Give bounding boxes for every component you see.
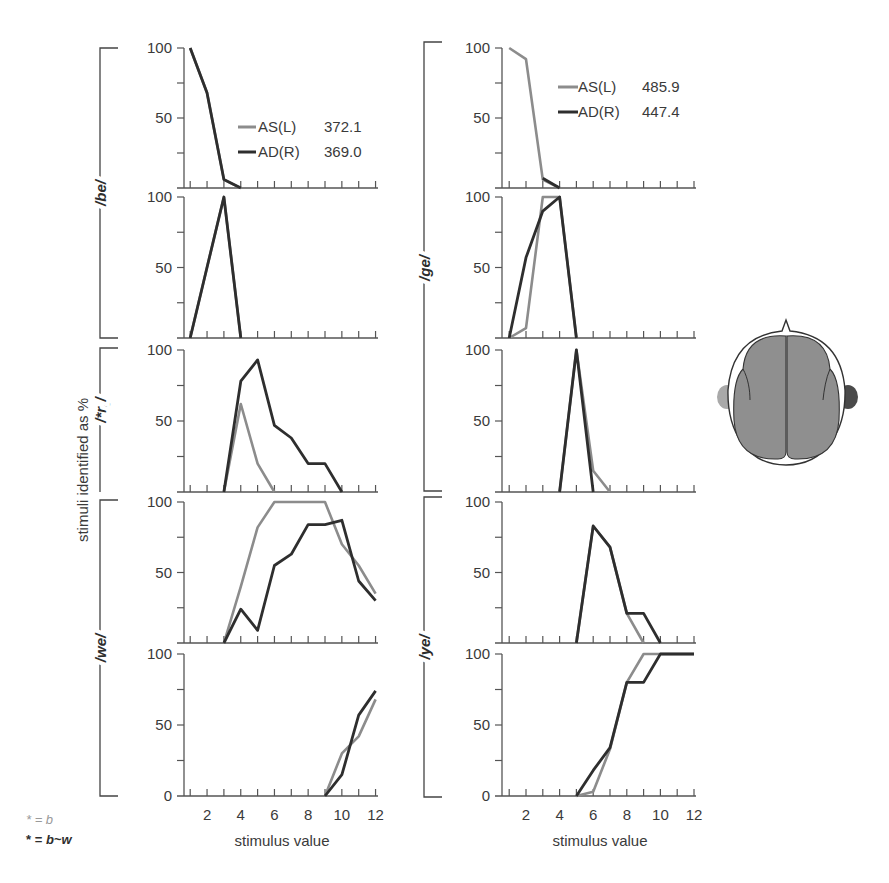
- y-tick-label: 100: [147, 645, 172, 662]
- y-tick-label: 100: [147, 341, 172, 358]
- y-tick-label: 100: [465, 341, 490, 358]
- x-tick-label: 2: [203, 806, 211, 823]
- x-tick-label: 2: [522, 806, 530, 823]
- legend-ad-value: 369.0: [324, 143, 362, 160]
- legend-left: AS(L) 372.1 AD(R) 369.0: [238, 118, 362, 160]
- series-ad-right-line: [224, 360, 342, 492]
- identification-figure: 1005010050100501005010050024681012100501…: [0, 0, 889, 883]
- y-tick-label: 50: [155, 109, 172, 126]
- legend-as-name: AS(L): [258, 118, 296, 135]
- y-tick-label: 50: [155, 564, 172, 581]
- series-as-left-line: [576, 654, 694, 796]
- y-tick-label: 0: [482, 787, 490, 804]
- series-ad-right-line: [509, 197, 576, 338]
- x-tick-label: 8: [304, 806, 312, 823]
- y-axis-title: stimuli identified as %: [74, 398, 91, 542]
- x-axis-title-right: stimulus value: [552, 832, 647, 849]
- y-tick-label: 100: [465, 188, 490, 205]
- panel-right-3: 10050: [465, 341, 696, 492]
- y-tick-label: 0: [164, 787, 172, 804]
- x-tick-label: 12: [686, 806, 703, 823]
- panel-right-2: 10050: [465, 188, 696, 338]
- y-tick-label: 50: [473, 564, 490, 581]
- group-label-ge: /ge/: [416, 253, 433, 282]
- x-tick-label: 10: [334, 806, 351, 823]
- series-ad-right-line: [224, 520, 376, 643]
- series-as-left-line: [509, 48, 559, 188]
- head-brain-icon: [717, 320, 858, 465]
- y-tick-label: 100: [147, 188, 172, 205]
- y-tick-label: 100: [465, 645, 490, 662]
- panel-left-4: 10050: [147, 493, 378, 643]
- x-tick-label: 8: [623, 806, 631, 823]
- y-tick-label: 100: [147, 493, 172, 510]
- series-ad-right-line: [576, 526, 660, 643]
- y-tick-label: 100: [465, 39, 490, 56]
- y-tick-label: 50: [155, 412, 172, 429]
- panel-right-4: 10050: [465, 493, 696, 643]
- legend-as-value: 372.1: [324, 118, 362, 135]
- x-tick-label: 6: [270, 806, 278, 823]
- series-as-left-line: [509, 197, 576, 338]
- panel-right-5: 10050024681012: [465, 645, 702, 823]
- x-axis-title-left: stimulus value: [234, 832, 329, 849]
- y-tick-label: 50: [155, 716, 172, 733]
- series-as-left-line: [576, 526, 643, 643]
- y-tick-label: 50: [473, 259, 490, 276]
- y-tick-label: 100: [465, 493, 490, 510]
- legend-as-name: AS(L): [578, 78, 616, 95]
- x-tick-label: 12: [367, 806, 384, 823]
- panel-left-3: 10050: [147, 341, 378, 492]
- group-label-be: /be/: [92, 178, 109, 207]
- x-tick-label: 4: [237, 806, 245, 823]
- group-label-we: /we/: [92, 632, 109, 663]
- x-tick-label: 10: [652, 806, 669, 823]
- panel-left-2: 10050: [147, 188, 378, 338]
- x-tick-label: 4: [555, 806, 563, 823]
- y-tick-label: 50: [473, 412, 490, 429]
- series-ad-right-line: [190, 197, 241, 338]
- series-ad-right-line: [543, 178, 560, 188]
- footnote-dark: * = b~w: [26, 832, 72, 847]
- series-ad-right-line: [560, 350, 594, 492]
- legend-as-value: 485.9: [642, 78, 680, 95]
- y-tick-label: 50: [473, 109, 490, 126]
- series-as-left-line: [224, 502, 376, 643]
- panel-left-5: 10050024681012: [147, 645, 384, 823]
- footnote-gray: * = b: [26, 812, 53, 827]
- series-ad-right-line: [576, 654, 694, 796]
- plot-area: 1005010050100501005010050024681012100501…: [147, 39, 702, 823]
- x-tick-label: 6: [589, 806, 597, 823]
- legend-ad-value: 447.4: [642, 103, 680, 120]
- series-ad-right-line: [190, 48, 241, 188]
- panel-left-1: 10050: [147, 39, 378, 188]
- y-tick-label: 100: [147, 39, 172, 56]
- legend-ad-name: AD(R): [578, 103, 620, 120]
- legend-ad-name: AD(R): [258, 143, 300, 160]
- legend-right: AS(L) 485.9 AD(R) 447.4: [558, 78, 680, 120]
- y-tick-label: 50: [155, 259, 172, 276]
- group-label-ye: /ye/: [416, 633, 433, 661]
- group-label-re: /*re/: [92, 395, 112, 423]
- y-tick-label: 50: [473, 716, 490, 733]
